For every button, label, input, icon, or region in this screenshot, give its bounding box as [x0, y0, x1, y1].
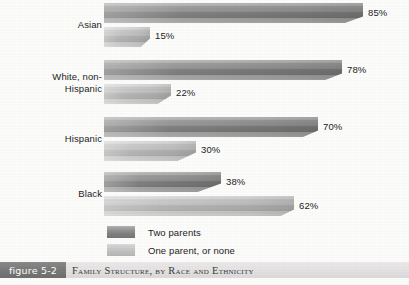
bar-value-label: 30% [201, 144, 220, 155]
chart-legend: Two parents One parent, or none [107, 224, 235, 260]
category-label-line: Hispanic [6, 83, 102, 95]
category-label-asian: Asian [6, 19, 102, 31]
category-label-line: Asian [6, 19, 102, 31]
bar-fill [104, 196, 294, 216]
legend-item-label: One parent, or none [148, 245, 235, 256]
bar-value-label: 22% [176, 87, 195, 98]
category-label-black: Black [6, 188, 102, 200]
bar-value-label: 38% [226, 176, 245, 187]
bar-fill [104, 60, 342, 80]
category-label-hispanic: Hispanic [6, 133, 102, 145]
legend-swatch-icon [107, 226, 135, 238]
figure-caption-title: Family Structure, by Race and Ethnicity [66, 262, 409, 278]
bar-group-black: Black 38% 62% [0, 172, 409, 225]
legend-item-two-parents[interactable]: Two parents [107, 224, 235, 240]
bar-fill [104, 84, 171, 104]
bar-value-label: 85% [368, 7, 387, 18]
bar-fill [104, 172, 221, 192]
legend-item-one-parent[interactable]: One parent, or none [107, 242, 235, 258]
bar-value-label: 62% [299, 200, 318, 211]
category-label-line: Black [6, 188, 102, 200]
legend-swatch-icon [107, 244, 135, 256]
figure-number-tag: figure 5-2 [0, 262, 66, 278]
bar-chart-plot-area: Asian 85% 15% White, non- Hispanic 78% 2… [0, 0, 409, 222]
bar-fill [104, 141, 196, 161]
bar-group-asian: Asian 85% 15% [0, 3, 409, 56]
bar-value-label: 78% [347, 64, 366, 75]
bar-value-label: 70% [323, 121, 342, 132]
category-label-line: White, non- [6, 71, 102, 83]
bar-group-hispanic: Hispanic 70% 30% [0, 117, 409, 170]
bar-fill [104, 117, 318, 137]
bar-value-label: 15% [155, 30, 174, 41]
figure-caption-bar: figure 5-2 Family Structure, by Race and… [0, 262, 409, 278]
category-label-line: Hispanic [6, 133, 102, 145]
legend-item-label: Two parents [148, 227, 201, 238]
bar-fill [104, 3, 363, 23]
bar-group-white-non-hispanic: White, non- Hispanic 78% 22% [0, 60, 409, 113]
bar-fill [104, 27, 150, 47]
category-label-white-non-hispanic: White, non- Hispanic [6, 71, 102, 94]
